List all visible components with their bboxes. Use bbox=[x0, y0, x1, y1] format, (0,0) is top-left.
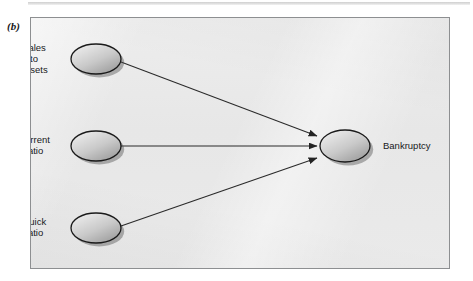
node-current-ratio[interactable] bbox=[71, 131, 121, 161]
node-label-sales-to-assets: Sales to assets bbox=[30, 42, 67, 75]
edge-sales-to-assets-to-bankruptcy bbox=[121, 62, 317, 136]
node-sales-to-assets[interactable] bbox=[71, 44, 121, 74]
diagram-panel: Sales to assetsCurrent ratioQuick ratioB… bbox=[30, 17, 450, 269]
ellipse-body bbox=[71, 131, 121, 161]
ellipse-body bbox=[320, 130, 370, 162]
ellipse-sales-to-assets bbox=[64, 37, 128, 81]
panel-letter-label: (b) bbox=[7, 20, 20, 32]
edge-quick-ratio-to-bankruptcy bbox=[121, 158, 317, 226]
ellipse-bankruptcy bbox=[313, 123, 377, 169]
node-quick-ratio[interactable] bbox=[71, 213, 121, 243]
ellipse-quick-ratio bbox=[64, 206, 128, 250]
node-bankruptcy[interactable] bbox=[320, 130, 370, 162]
node-label-bankruptcy: Bankruptcy bbox=[383, 140, 431, 151]
page-top-rule bbox=[28, 2, 470, 5]
node-label-current-ratio: Current ratio bbox=[30, 134, 67, 156]
figure-root: (b) Sales to assetsCurrent ratioQuick ra… bbox=[0, 0, 473, 281]
ellipse-body bbox=[71, 213, 121, 243]
ellipse-current-ratio bbox=[64, 124, 128, 168]
node-label-quick-ratio: Quick ratio bbox=[30, 216, 67, 238]
ellipse-body bbox=[71, 44, 121, 74]
